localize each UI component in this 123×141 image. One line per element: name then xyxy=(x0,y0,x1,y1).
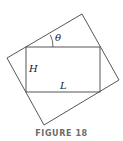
figure-caption: FIGURE 18 xyxy=(0,129,123,139)
length-label: L xyxy=(59,80,67,91)
height-label: H xyxy=(28,63,38,74)
theta-label: θ xyxy=(55,32,61,43)
rectangle-in-square-diagram: θ H L xyxy=(0,0,123,141)
angle-arc xyxy=(50,35,53,47)
figure-container: θ H L FIGURE 18 xyxy=(0,0,123,141)
outer-tilted-square xyxy=(7,14,119,125)
